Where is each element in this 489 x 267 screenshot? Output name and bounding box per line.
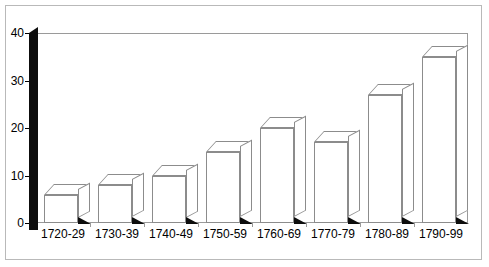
y-tick-mark bbox=[25, 33, 29, 34]
bar-side-face bbox=[456, 44, 468, 217]
y-tick-mark bbox=[25, 128, 29, 129]
bar-column bbox=[152, 165, 186, 224]
x-tick-mark bbox=[306, 223, 307, 227]
x-tick-mark bbox=[252, 223, 253, 227]
y-tick-mark bbox=[25, 176, 29, 177]
bar-base-shadow bbox=[456, 217, 469, 224]
bar-front-face bbox=[206, 152, 240, 223]
bar-column bbox=[44, 184, 78, 224]
x-tick-label: 1720-29 bbox=[36, 228, 90, 240]
bar-side-face bbox=[348, 130, 360, 217]
y-tick-label: 40 bbox=[0, 27, 24, 39]
bar-side-face bbox=[402, 82, 414, 217]
x-tick-mark bbox=[360, 223, 361, 227]
bar-side-face bbox=[294, 116, 306, 217]
y-tick-mark bbox=[25, 223, 29, 224]
bar-side-face bbox=[240, 139, 252, 217]
bar-column bbox=[98, 174, 132, 223]
y-tick-label: 30 bbox=[0, 75, 24, 87]
bar-column bbox=[422, 46, 456, 223]
bar-front-face bbox=[44, 195, 78, 224]
x-tick-mark bbox=[144, 223, 145, 227]
plot-area bbox=[36, 33, 468, 223]
bar-side-face bbox=[78, 182, 90, 217]
x-tick-label: 1790-99 bbox=[414, 228, 468, 240]
y-tick-label: 10 bbox=[0, 170, 24, 182]
y-axis-ticks: 010203040 bbox=[0, 0, 28, 267]
x-tick-mark bbox=[414, 223, 415, 227]
bar-front-face bbox=[368, 95, 402, 223]
bar-front-face bbox=[260, 128, 294, 223]
bar-side-face bbox=[186, 163, 198, 217]
bar-side-face bbox=[132, 173, 144, 217]
y-tick-mark bbox=[25, 81, 29, 82]
bar-column bbox=[206, 141, 240, 223]
x-tick-label: 1750-59 bbox=[198, 228, 252, 240]
x-tick-mark bbox=[198, 223, 199, 227]
y-tick-label: 20 bbox=[0, 122, 24, 134]
y-axis-wall bbox=[29, 33, 38, 223]
x-tick-label: 1730-39 bbox=[90, 228, 144, 240]
bar-front-face bbox=[98, 185, 132, 223]
bar-column bbox=[368, 84, 402, 223]
bar-front-face bbox=[314, 142, 348, 223]
x-tick-mark bbox=[90, 223, 91, 227]
bar-column bbox=[314, 131, 348, 223]
chart-page: 010203040 1720-291730-391740-491750-5917… bbox=[0, 0, 489, 267]
bar-column bbox=[260, 117, 294, 223]
x-tick-label: 1780-89 bbox=[360, 228, 414, 240]
x-tick-label: 1770-79 bbox=[306, 228, 360, 240]
bar-front-face bbox=[422, 57, 456, 223]
y-tick-label: 0 bbox=[0, 217, 24, 229]
x-tick-label: 1760-69 bbox=[252, 228, 306, 240]
bar-front-face bbox=[152, 176, 186, 224]
x-tick-label: 1740-49 bbox=[144, 228, 198, 240]
